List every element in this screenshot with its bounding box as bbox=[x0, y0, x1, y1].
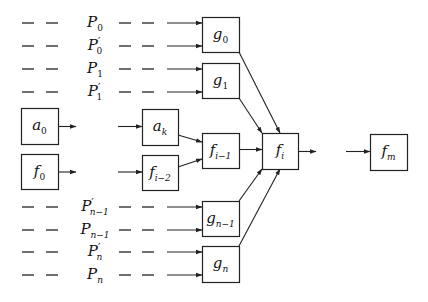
edge-gn-to-fi bbox=[239, 169, 280, 246]
box-gnm1: gn−1 bbox=[203, 202, 240, 237]
input-row-P-1: P1 bbox=[22, 59, 202, 79]
input-rows: P0P′0P1P′1P′n−1Pn−1P′nPn bbox=[22, 13, 202, 285]
math-label: P0 bbox=[86, 13, 103, 33]
box-g0: g0 bbox=[203, 18, 240, 53]
edge-gnm1-to-fi bbox=[239, 169, 262, 201]
math-label: Pn bbox=[86, 265, 103, 285]
box-f0: f0 bbox=[22, 155, 59, 190]
math-label: P′n bbox=[87, 241, 103, 262]
input-row-P-0: P0 bbox=[22, 13, 202, 33]
box-ak: ak bbox=[143, 110, 179, 146]
edge-g1-to-fi bbox=[239, 98, 262, 133]
boxes: g0g1a0akfi−1fifmf0fi−2gn−1gn bbox=[22, 18, 408, 283]
math-label: P′n−1 bbox=[80, 196, 109, 217]
input-row-P-prime-1: P′1 bbox=[22, 81, 202, 102]
edge-ak-to-fim1 bbox=[178, 135, 202, 142]
box-a0: a0 bbox=[22, 109, 59, 145]
input-row-P-prime-0: P′0 bbox=[22, 35, 202, 56]
box-fim1: fi−1 bbox=[203, 134, 240, 169]
input-row-P-prime-n: P′n bbox=[22, 241, 202, 262]
input-row-P-n: Pn bbox=[22, 265, 202, 285]
box-fim2: fi−2 bbox=[143, 156, 179, 191]
box-fm: fm bbox=[371, 135, 408, 171]
math-label: P1 bbox=[86, 59, 103, 79]
box-gn: gn bbox=[203, 247, 240, 283]
recurrence-dependency-diagram: P0P′0P1P′1P′n−1Pn−1P′nPn g0g1a0akfi−1fif… bbox=[0, 0, 428, 302]
math-label: P′1 bbox=[87, 81, 102, 102]
math-label: Pn−1 bbox=[79, 220, 109, 240]
box-g1: g1 bbox=[203, 64, 240, 99]
edge-fim2-to-fim1 bbox=[178, 159, 202, 167]
edge-g0-to-fi bbox=[239, 52, 280, 133]
input-row-P-prime-n−1: P′n−1 bbox=[22, 196, 202, 217]
math-label: P′0 bbox=[87, 35, 103, 56]
box-fi: fi bbox=[263, 134, 299, 170]
input-row-P-n−1: Pn−1 bbox=[22, 220, 202, 240]
